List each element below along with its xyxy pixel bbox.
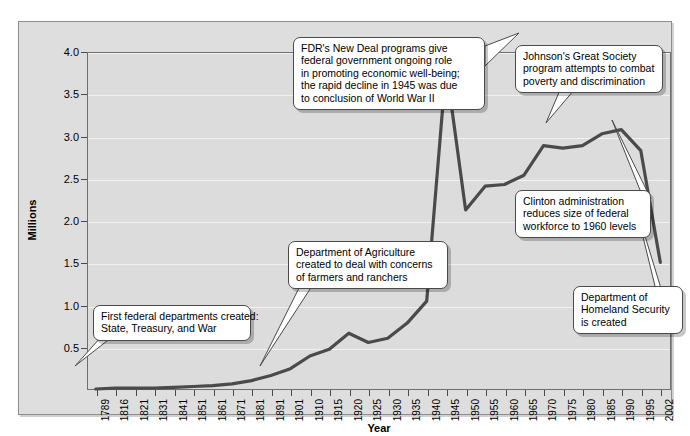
x-tick (661, 390, 662, 396)
annotation-line: federal government ongoing role (301, 54, 477, 66)
x-tick-label: 1970 (548, 399, 558, 421)
x-axis: 1789181618211831184118511861187118811891… (87, 390, 671, 436)
y-tick-label: 1.5 (35, 258, 79, 268)
annotation-line: Clinton administration (523, 195, 643, 207)
x-tick (544, 390, 545, 396)
x-tick-label: 1821 (140, 399, 150, 421)
gridline (88, 349, 670, 350)
x-tick-label: 2002 (665, 399, 675, 421)
x-tick (622, 390, 623, 396)
x-tick (330, 390, 331, 396)
annotation-line: First federal departments created: (101, 310, 243, 322)
annotation-first-federal-departments: First federal departments created:State,… (93, 305, 251, 341)
x-tick (214, 390, 215, 396)
x-tick (642, 390, 643, 396)
x-tick (291, 390, 292, 396)
x-tick (175, 390, 176, 396)
x-tick (486, 390, 487, 396)
x-tick-label: 1891 (276, 399, 286, 421)
x-tick-label: 1980 (587, 399, 597, 421)
x-tick-label: 1851 (198, 399, 208, 421)
x-tick (369, 390, 370, 396)
x-tick (389, 390, 390, 396)
annotation-line: Johnson's Great Society (523, 50, 655, 62)
annotation-fdr-new-deal: FDR's New Deal programs givefederal gove… (293, 37, 485, 110)
x-tick (155, 390, 156, 396)
annotation-department-of-agriculture: Department of Agriculturecreated to deal… (288, 241, 448, 289)
x-tick-label: 1935 (412, 399, 422, 421)
x-tick (272, 390, 273, 396)
x-tick-label: 1955 (490, 399, 500, 421)
x-tick-label: 1915 (334, 399, 344, 421)
x-tick (583, 390, 584, 396)
annotation-line: Homeland Security (581, 303, 675, 315)
x-tick (350, 390, 351, 396)
x-tick-label: 1871 (237, 399, 247, 421)
x-tick (564, 390, 565, 396)
x-tick (97, 390, 98, 396)
x-tick-label: 1950 (471, 399, 481, 421)
x-tick-label: 1975 (568, 399, 578, 421)
x-tick (603, 390, 604, 396)
annotation-line: program attempts to combat (523, 62, 655, 74)
x-tick-label: 1910 (315, 399, 325, 421)
x-tick-label: 1965 (529, 399, 539, 421)
annotation-line: Department of (581, 291, 675, 303)
x-tick-label: 1920 (354, 399, 364, 421)
x-tick (428, 390, 429, 396)
x-tick (194, 390, 195, 396)
y-axis: Millions 0.51.01.52.02.53.03.54.0 (37, 52, 87, 390)
y-tick-label: 1.0 (35, 301, 79, 311)
x-tick (506, 390, 507, 396)
x-tick-label: 1945 (451, 399, 461, 421)
x-tick-label: 1995 (646, 399, 656, 421)
gridline (88, 138, 670, 139)
gridline (88, 180, 670, 181)
annotation-homeland-security: Department ofHomeland Securityis created (573, 286, 683, 334)
annotation-line: workforce to 1960 levels (523, 220, 643, 232)
annotation-line: created to deal with concerns (296, 258, 440, 270)
x-tick (252, 390, 253, 396)
x-tick-label: 1881 (256, 399, 266, 421)
x-tick (467, 390, 468, 396)
annotation-line: reduces size of federal (523, 207, 643, 219)
y-tick-label: 4.0 (35, 47, 79, 57)
x-tick-label: 1930 (393, 399, 403, 421)
x-tick-label: 1816 (120, 399, 130, 421)
x-tick-label: 1901 (295, 399, 305, 421)
x-tick-label: 1990 (626, 399, 636, 421)
y-tick-label: 0.5 (35, 343, 79, 353)
x-tick (311, 390, 312, 396)
annotation-line: poverty and discrimination (523, 75, 655, 87)
annotation-line: Department of Agriculture (296, 246, 440, 258)
x-axis-title: Year (87, 422, 671, 434)
x-tick (116, 390, 117, 396)
x-tick-label: 1940 (432, 399, 442, 421)
annotation-line: is created (581, 316, 675, 328)
x-tick-label: 1831 (159, 399, 169, 421)
x-tick (447, 390, 448, 396)
x-tick-label: 1861 (218, 399, 228, 421)
y-tick-label: 3.0 (35, 132, 79, 142)
x-tick (233, 390, 234, 396)
annotation-johnson-great-society: Johnson's Great Societyprogram attempts … (515, 45, 663, 93)
y-tick-label: 3.5 (35, 89, 79, 99)
x-tick (525, 390, 526, 396)
annotation-line: to conclusion of World War II (301, 92, 477, 104)
annotation-line: in promoting economic well-being; (301, 67, 477, 79)
x-tick (408, 390, 409, 396)
x-tick-label: 1925 (373, 399, 383, 421)
x-tick-label: 1960 (510, 399, 520, 421)
x-tick-label: 1985 (607, 399, 617, 421)
x-tick-label: 1841 (179, 399, 189, 421)
annotation-line: the rapid decline in 1945 was due (301, 79, 477, 91)
annotation-clinton-administration: Clinton administrationreduces size of fe… (515, 190, 651, 238)
y-tick-label: 2.5 (35, 174, 79, 184)
annotation-line: FDR's New Deal programs give (301, 42, 477, 54)
x-tick (136, 390, 137, 396)
annotation-line: of farmers and ranchers (296, 271, 440, 283)
y-tick-label: 2.0 (35, 216, 79, 226)
annotation-line: State, Treasury, and War (101, 322, 243, 334)
x-tick-label: 1789 (101, 399, 111, 421)
